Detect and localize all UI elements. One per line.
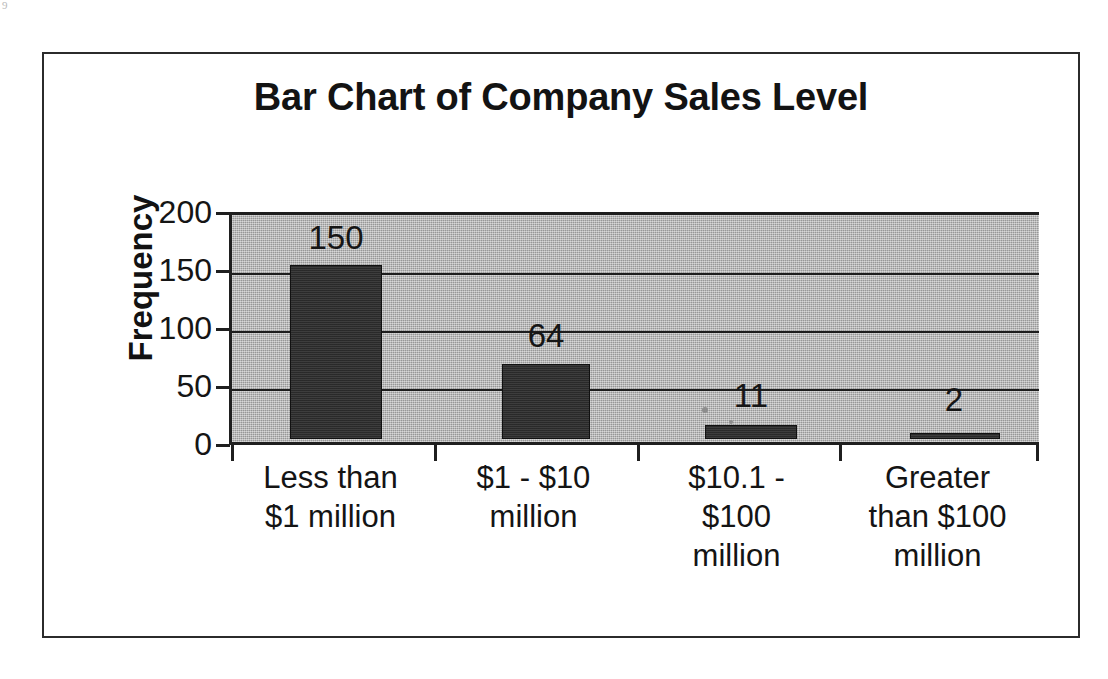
y-tick-mark-200 xyxy=(216,212,230,215)
plot-area: 150 64 11 2 xyxy=(229,212,1039,445)
x-category-label-0-line-1: $1 million xyxy=(229,497,432,536)
bar-value-label-11: 11 xyxy=(705,379,797,413)
bar-1-to-10-million xyxy=(502,364,590,439)
bar-less-than-1-million xyxy=(290,265,382,439)
x-category-label-0: Less than $1 million xyxy=(229,458,432,536)
bar-value-label-150: 150 xyxy=(290,221,382,255)
x-category-label-2: $10.1 - $100 million xyxy=(635,458,838,575)
x-category-label-2-line-1: $100 xyxy=(635,497,838,536)
chart-title: Bar Chart of Company Sales Level xyxy=(44,76,1078,119)
y-tick-label-100: 100 xyxy=(122,312,212,344)
x-category-label-2-line-2: million xyxy=(635,536,838,575)
y-tick-mark-150 xyxy=(216,270,230,273)
bar-10-1-to-100-million xyxy=(705,425,797,439)
x-category-label-1: $1 - $10 million xyxy=(432,458,635,536)
x-category-label-3-line-1: than $100 xyxy=(836,497,1039,536)
chart-figure-frame: Bar Chart of Company Sales Level Frequen… xyxy=(42,52,1080,638)
x-category-label-0-line-0: Less than xyxy=(229,458,432,497)
bar-greater-than-100-million xyxy=(910,433,1000,439)
x-category-label-1-line-1: million xyxy=(432,497,635,536)
x-category-label-1-line-0: $1 - $10 xyxy=(432,458,635,497)
scan-artifact: 9 xyxy=(2,0,14,10)
y-tick-label-150: 150 xyxy=(122,254,212,286)
y-tick-mark-100 xyxy=(216,328,230,331)
x-category-label-3-line-0: Greater xyxy=(836,458,1039,497)
bar-value-label-64: 64 xyxy=(500,319,592,353)
y-tick-mark-50 xyxy=(216,386,230,389)
x-category-label-2-line-0: $10.1 - xyxy=(635,458,838,497)
x-category-label-3: Greater than $100 million xyxy=(836,458,1039,575)
y-tick-label-50: 50 xyxy=(122,370,212,402)
y-tick-label-0: 0 xyxy=(122,428,212,460)
scan-speck-2 xyxy=(729,420,733,424)
bar-value-label-2: 2 xyxy=(908,383,1000,417)
x-category-label-3-line-2: million xyxy=(836,536,1039,575)
y-tick-mark-0 xyxy=(216,444,230,447)
y-tick-label-200: 200 xyxy=(122,196,212,228)
